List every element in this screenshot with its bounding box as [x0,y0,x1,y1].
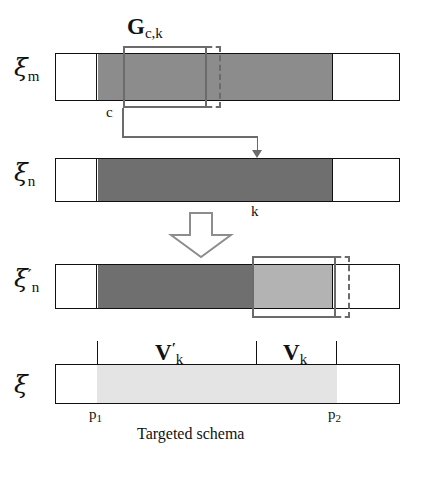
label-p1-sub: 1 [97,412,103,424]
xi-symbol-m: ξ [14,53,28,82]
selection-box-dashed-row1[interactable] [207,46,221,108]
bar-xi-n-prime-segment-gray-dark-body [98,265,254,308]
xi-symbol: ξ [14,370,28,399]
bar-xi-m-segment-right-white [332,54,399,100]
bar-xi [55,364,400,404]
connector-arrowhead [252,150,262,158]
bar-xi-n-prime-segment-left-white [56,265,97,308]
diagram-canvas: ξm Gc,k c ξn k ξ′n [0,0,422,477]
xi-symbol-n-prime: ξ [14,264,28,293]
label-p2: p2 [328,406,341,424]
row-label-xi-m: ξm [14,55,39,84]
label-p1: p1 [89,406,102,424]
bar-xi-segment-left-white [56,365,97,403]
connector-segment-h1 [122,136,258,138]
selection-box-solid-row1[interactable] [123,46,207,108]
label-c-text: c [106,104,113,120]
label-k: k [251,203,259,220]
label-k-text: k [251,203,259,219]
bar-xi-n [55,158,400,202]
figure-caption-text: Targeted schema [137,425,244,442]
label-g-main: G [127,14,145,39]
bar-xi-n-segment-gray-body [98,159,333,201]
connector-segment-v1 [122,108,124,137]
row-label-xi-n: ξn [14,160,35,189]
bar-xi-segment-right-white [337,365,399,403]
xi-subscript-n-prime: n [32,279,40,295]
bar-xi-n-segment-right-white [332,159,399,201]
xi-symbol-n: ξ [14,158,28,187]
bar-xi-m-segment-left-white [56,54,97,100]
selection-box-solid-row3[interactable] [252,256,336,318]
label-p2-main: p [328,406,336,422]
bar-xi-segment-pale-body [97,365,337,403]
label-c: c [106,104,113,121]
label-v-prime-sub: k [176,351,184,367]
label-v-main: V [283,340,300,365]
label-p2-sub: 2 [336,412,342,424]
label-p1-main: p [89,406,97,422]
label-v-prime-main: V [155,340,172,365]
xi-subscript-n: n [28,173,36,189]
label-v-sub: k [300,351,308,367]
transform-block-arrow [168,211,234,263]
figure-caption: Targeted schema [137,425,244,443]
row-label-xi-n-prime: ξ′n [14,266,39,295]
bar-xi-n-segment-left-white [56,159,97,201]
label-v-prime-k: V′k [155,340,183,368]
row-label-xi: ξ [14,372,28,397]
label-g-ck: Gc,k [127,14,163,42]
bar-xi-m [55,53,400,101]
label-g-sub: c,k [145,25,163,41]
selection-box-dashed-row3[interactable] [336,256,350,318]
xi-subscript-m: m [28,68,40,84]
label-v-k: Vk [283,340,307,368]
